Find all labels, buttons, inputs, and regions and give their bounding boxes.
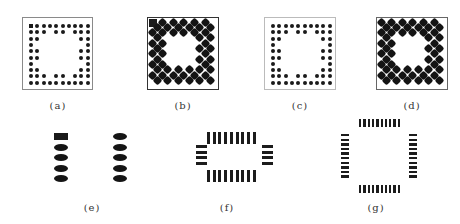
pad-bottom [207,170,210,182]
pad-right [409,148,417,150]
pad-top [241,132,244,144]
pad-top [372,119,374,127]
pad-top [376,119,378,127]
pad-right [262,151,273,154]
solder-ball [29,37,33,41]
solder-ball [35,37,39,41]
solder-ball [303,24,307,28]
solder-ball [290,81,294,85]
solder-ball [328,43,332,47]
solder-ball [61,24,65,28]
pad-top [230,132,233,144]
solder-ball [328,49,332,53]
oval-pad [54,144,68,151]
pad-bottom [363,185,365,193]
panel-g [335,117,425,197]
pad-top [236,132,239,144]
pad-bottom [218,170,221,182]
pad-left [196,156,207,159]
pad-left [341,157,349,159]
pad-right [262,162,273,165]
pad-left [196,145,207,148]
solder-ball [61,30,65,34]
pad-right [409,166,417,168]
caption-a: (a) [38,100,78,111]
pad-top [207,132,210,144]
solder-ball [67,81,71,85]
solder-ball [86,43,90,47]
caption-b: (b) [163,100,203,111]
solder-ball [73,81,77,85]
solder-ball [86,81,90,85]
solder-ball [315,81,319,85]
solder-ball [328,62,332,66]
solder-ball [284,24,288,28]
pad-right [409,162,417,164]
solder-ball [86,49,90,53]
pad-bottom [389,185,391,193]
caption-d: (d) [392,100,432,111]
solder-ball [48,24,52,28]
solder-ball [61,74,65,78]
pad-top [385,119,387,127]
solder-ball [309,24,313,28]
solder-ball [42,81,46,85]
pad-bottom [224,170,227,182]
panel-e [50,130,140,185]
pad-right [409,157,417,159]
oval-pad [54,154,68,161]
pad-left [196,162,207,165]
solder-ball [86,37,90,41]
pad-top [247,132,250,144]
pad-bottom [236,170,239,182]
solder-ball [309,81,313,85]
solder-ball [42,24,46,28]
solder-ball [42,30,46,34]
solder-ball [271,37,275,41]
oval-pad [113,165,127,172]
solder-ball [303,74,307,78]
solder-ball [284,81,288,85]
solder-ball [29,24,33,28]
solder-ball [296,81,300,85]
caption-c: (c) [280,100,320,111]
pad-top [381,119,383,127]
caption-g: (g) [356,202,396,213]
pad-bottom [213,170,216,182]
pad-bottom [241,170,244,182]
pad-bottom [381,185,383,193]
panel-c [264,17,336,90]
pad-right [409,175,417,177]
solder-ball [29,43,33,47]
solder-ball [48,81,52,85]
pad-left [341,152,349,154]
solder-ball [79,56,83,60]
pad-top [363,119,365,127]
package-outline [264,17,336,90]
oval-pad [113,144,127,151]
pad-top [218,132,221,144]
pad-left [341,166,349,168]
panel-d [376,17,448,90]
pad-right [409,143,417,145]
solder-ball [328,56,332,60]
pad-right [409,171,417,173]
solder-ball [54,81,58,85]
solder-ball [35,56,39,60]
solder-ball [277,56,281,60]
pad-bottom [372,185,374,193]
pad-bottom [376,185,378,193]
solder-ball [277,37,281,41]
pad-left [341,175,349,177]
pad-bottom [359,185,361,193]
solder-ball [328,68,332,72]
solder-ball [290,24,294,28]
pad-right [409,139,417,141]
solder-ball [271,62,275,66]
pad-bottom [368,185,370,193]
panel-f [190,130,280,190]
pad-top [368,119,370,127]
solder-ball [86,68,90,72]
solder-ball [271,81,275,85]
pad-bottom [247,170,250,182]
